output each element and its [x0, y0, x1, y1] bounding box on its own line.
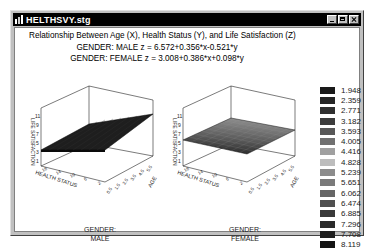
- legend-item: 1.948: [320, 85, 361, 95]
- maximize-button[interactable]: [338, 15, 348, 24]
- legend-swatch: [320, 107, 335, 114]
- legend-swatch: [320, 210, 335, 217]
- svg-text:10: 10: [211, 172, 218, 179]
- svg-text:3.5: 3.5: [130, 173, 138, 181]
- svg-text:14: 14: [55, 169, 62, 176]
- legend-item: 3.182: [320, 116, 361, 126]
- x-axis-label: AGE: [289, 175, 300, 188]
- legend-swatch: [320, 97, 335, 104]
- legend-item: 7.708: [320, 229, 361, 239]
- close-button[interactable]: [349, 15, 359, 24]
- legend-swatch: [320, 148, 335, 155]
- legend-item: 2.771: [320, 106, 361, 116]
- legend-item: 7.296: [320, 219, 361, 229]
- legend-item: 5.239: [320, 167, 361, 177]
- legend-item: 2.359: [320, 95, 361, 105]
- z-axis-label: LIFE SATISFACTION: [30, 118, 36, 166]
- svg-text:0.5: 0.5: [248, 186, 256, 194]
- svg-text:0.5: 0.5: [106, 186, 114, 194]
- svg-text:5.5: 5.5: [146, 164, 154, 172]
- legend-item: 3.593: [320, 126, 361, 136]
- legend-item: 8.119: [320, 239, 361, 249]
- svg-text:5.5: 5.5: [288, 164, 296, 172]
- legend-item: 4.005: [320, 136, 361, 146]
- legend-item: 6.885: [320, 209, 361, 219]
- male-equation: GENDER: MALE z = 6.572+0.356*x-0.521*y: [0, 43, 359, 52]
- svg-text:3.5: 3.5: [272, 173, 280, 181]
- graph-title: Relationship Between Age (X), Health Sta…: [29, 31, 359, 40]
- svg-text:4.5: 4.5: [138, 168, 146, 176]
- app-icon: [15, 15, 24, 24]
- legend-swatch: [320, 231, 335, 238]
- legend-item: 4.828: [320, 157, 361, 167]
- male-surface-plot: 1197 531 LIFE SATISFACTION HEALTH STATUS…: [21, 78, 171, 198]
- svg-text:2.5: 2.5: [264, 177, 272, 185]
- color-legend: 1.948 2.359 2.771 3.182 3.593 4.005 4.41…: [320, 85, 361, 250]
- legend-item: 6.062: [320, 188, 361, 198]
- legend-swatch: [320, 87, 335, 94]
- app-window: HELTHSVY.stg Relationship Between Age (X…: [10, 10, 364, 236]
- male-footer: GENDER: MALE: [70, 225, 130, 243]
- female-equation: GENDER: FEMALE z = 3.008+0.386*x+0.098*y: [0, 54, 359, 63]
- legend-swatch: [320, 190, 335, 197]
- svg-text:2.5: 2.5: [122, 177, 130, 185]
- legend-swatch: [320, 241, 335, 248]
- svg-text:14: 14: [197, 169, 204, 176]
- legend-swatch: [320, 221, 335, 228]
- female-surface-plot: 1197 531 LIFE SATISFACTION HEALTH STATUS…: [163, 78, 313, 198]
- legend-swatch: [320, 169, 335, 176]
- svg-text:1.5: 1.5: [256, 182, 264, 190]
- legend-swatch: [320, 118, 335, 125]
- legend-item: 5.651: [320, 178, 361, 188]
- legend-swatch: [320, 159, 335, 166]
- legend-item: 4.416: [320, 147, 361, 157]
- minimize-button[interactable]: [327, 15, 337, 24]
- svg-text:10: 10: [69, 172, 76, 179]
- legend-swatch: [320, 200, 335, 207]
- window-title: HELTHSVY.stg: [26, 15, 91, 25]
- legend-swatch: [320, 128, 335, 135]
- x-axis-label: AGE: [147, 175, 158, 188]
- graph-area: Relationship Between Age (X), Health Sta…: [14, 27, 360, 232]
- svg-text:4.5: 4.5: [280, 168, 288, 176]
- z-axis-label: LIFE SATISFACTION: [172, 118, 178, 166]
- female-footer: GENDER: FEMALE: [215, 225, 275, 243]
- legend-swatch: [320, 138, 335, 145]
- title-bar[interactable]: HELTHSVY.stg: [13, 13, 361, 26]
- svg-text:1.5: 1.5: [114, 182, 122, 190]
- legend-swatch: [320, 179, 335, 186]
- legend-item: 6.474: [320, 198, 361, 208]
